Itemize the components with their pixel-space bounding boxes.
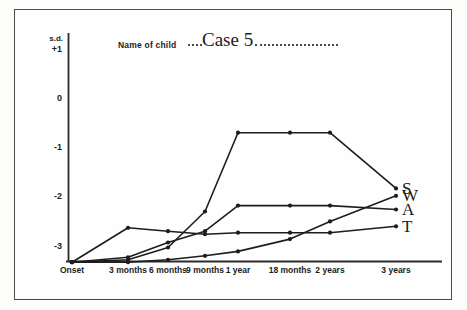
- data-point-W: [203, 254, 207, 258]
- series-end-labels: SWAT: [402, 179, 419, 236]
- x-tick-label: 3 years: [381, 265, 411, 275]
- x-tick-label: 18 months: [269, 265, 312, 275]
- data-point-A: [328, 204, 332, 208]
- data-point-W: [394, 194, 398, 198]
- data-point-T: [70, 260, 74, 264]
- data-point-S: [328, 131, 332, 135]
- y-tick-label: -3: [54, 241, 62, 251]
- data-point-W: [236, 249, 240, 253]
- data-point-T: [288, 231, 292, 235]
- x-tick-label: 6 months: [149, 265, 187, 275]
- y-tick-label: +1: [52, 44, 62, 54]
- data-point-S: [394, 186, 398, 190]
- data-point-A: [288, 204, 292, 208]
- growth-chart-page: Name of child Case 5 +10-1-2-3 s.d. Onse…: [0, 0, 467, 310]
- data-point-W: [288, 237, 292, 241]
- data-point-T: [126, 226, 130, 230]
- data-point-W: [126, 260, 130, 264]
- data-point-W: [328, 219, 332, 223]
- data-point-A: [166, 240, 170, 244]
- data-point-T: [236, 231, 240, 235]
- x-tick-label: 1 year: [226, 265, 251, 275]
- series-line-W: [72, 196, 396, 262]
- series-layer: [70, 131, 398, 265]
- series-line-T: [72, 226, 396, 262]
- data-point-T: [166, 229, 170, 233]
- x-tick-label: 3 months: [109, 265, 147, 275]
- y-tick-label: -2: [54, 191, 62, 201]
- data-point-T: [328, 231, 332, 235]
- data-point-S: [203, 209, 207, 213]
- x-tick-label: Onset: [60, 265, 84, 275]
- y-tick-labels: +10-1-2-3: [52, 44, 62, 251]
- sd-unit-label: s.d.: [49, 34, 63, 43]
- x-tick-label: 9 months: [186, 265, 224, 275]
- data-point-A: [394, 207, 398, 211]
- data-point-S: [166, 245, 170, 249]
- data-point-W: [166, 258, 170, 262]
- x-tick-label: 2 years: [315, 265, 345, 275]
- data-point-T: [394, 224, 398, 228]
- data-point-A: [126, 255, 130, 259]
- series-line-S: [72, 133, 396, 263]
- data-point-T: [203, 232, 207, 236]
- data-point-A: [236, 204, 240, 208]
- data-point-S: [288, 131, 292, 135]
- y-tick-label: 0: [57, 93, 62, 103]
- series-label-T: T: [402, 217, 413, 236]
- chart-svg: +10-1-2-3 s.d. Onset3 months6 months9 mo…: [0, 0, 467, 310]
- y-tick-label: -1: [54, 142, 62, 152]
- x-tick-labels: Onset3 months6 months9 months1 year18 mo…: [60, 265, 411, 275]
- data-point-S: [236, 131, 240, 135]
